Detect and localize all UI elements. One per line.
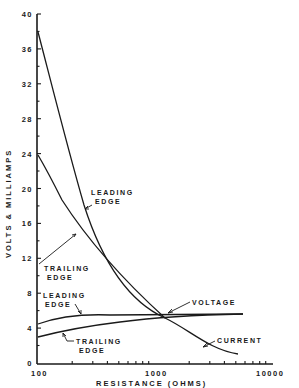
annotation-current-trailing-edge: TRAILING EDGE <box>39 234 90 281</box>
svg-text:32: 32 <box>22 80 33 89</box>
x-tick-labels: 100 1000 10000 <box>31 369 284 378</box>
svg-text:8: 8 <box>27 289 33 298</box>
svg-text:36: 36 <box>22 45 33 54</box>
annotation-voltage: VOLTAGE <box>168 299 236 313</box>
voltage-trailing-edge-curve <box>38 314 243 337</box>
svg-text:EDGE: EDGE <box>95 198 121 205</box>
svg-text:EDGE: EDGE <box>47 274 73 281</box>
y-tick-labels: 40 36 32 28 24 20 16 12 8 4 0 <box>22 10 33 368</box>
annotation-current-leading-edge: LEADING EDGE <box>85 189 134 209</box>
svg-text:28: 28 <box>22 115 33 124</box>
svg-text:24: 24 <box>22 150 33 159</box>
svg-text:16: 16 <box>22 219 33 228</box>
svg-text:40: 40 <box>22 10 33 19</box>
svg-text:12: 12 <box>22 254 33 263</box>
svg-text:LEADING: LEADING <box>91 189 134 196</box>
svg-text:20: 20 <box>22 185 33 194</box>
svg-text:10000: 10000 <box>256 369 284 378</box>
annotation-voltage-leading-edge: LEADING EDGE <box>43 292 86 314</box>
svg-text:TRAILING: TRAILING <box>44 265 90 272</box>
svg-text:EDGE: EDGE <box>79 347 105 354</box>
svg-text:1000: 1000 <box>145 369 168 378</box>
annotation-voltage-trailing-edge: TRAILING EDGE <box>63 333 122 354</box>
svg-text:LEADING: LEADING <box>43 292 86 299</box>
x-axis-title: RESISTANCE (OHMS) <box>96 379 207 388</box>
svg-text:0: 0 <box>27 359 33 368</box>
svg-text:100: 100 <box>31 369 48 378</box>
resistance-chart: 40 36 32 28 24 20 16 12 8 4 0 100 1000 1… <box>0 0 299 388</box>
svg-text:TRAILING: TRAILING <box>76 338 122 345</box>
svg-text:CURRENT: CURRENT <box>217 337 262 344</box>
y-axis-title: VOLTS & MILLIAMPS <box>4 149 13 258</box>
svg-text:VOLTAGE: VOLTAGE <box>192 299 236 306</box>
svg-text:EDGE: EDGE <box>45 301 71 308</box>
svg-text:4: 4 <box>27 324 33 333</box>
